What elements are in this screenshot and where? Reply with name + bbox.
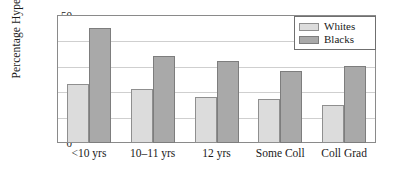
- bar-blacks-2: [153, 56, 175, 143]
- legend-swatch-icon: [299, 36, 319, 44]
- legend-label: Whites: [324, 21, 355, 32]
- bar-group: [67, 15, 111, 143]
- legend-item-whites: Whites: [299, 20, 371, 33]
- y-axis-title: Percentage Hypertensive: [8, 0, 24, 86]
- bar-blacks-5: [344, 66, 366, 143]
- bar-blacks-3: [217, 61, 239, 143]
- legend-label: Blacks: [324, 34, 354, 45]
- bar-whites-1: [67, 84, 89, 143]
- legend-item-blacks: Blacks: [299, 33, 371, 46]
- bar-chart: Percentage Hypertensive 01020304050 <10 …: [0, 0, 393, 172]
- bar-whites-5: [322, 105, 344, 143]
- bar-group: [131, 15, 175, 143]
- bar-blacks-4: [280, 71, 302, 143]
- legend-swatch-icon: [299, 23, 319, 31]
- bar-blacks-1: [89, 28, 111, 143]
- bar-whites-2: [131, 89, 153, 143]
- x-tick-label: Coll Grad: [304, 147, 384, 160]
- bar-whites-3: [195, 97, 217, 143]
- bar-group: [195, 15, 239, 143]
- legend: WhitesBlacks: [294, 16, 376, 50]
- bar-whites-4: [258, 99, 280, 143]
